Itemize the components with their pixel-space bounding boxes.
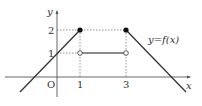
y-axis-label: y — [46, 6, 53, 17]
y-tick-1: 1 — [48, 48, 54, 59]
x-axis-arrow-icon — [187, 76, 191, 79]
function-graph: y x 2 1 O 1 3 y=f(x) — [0, 0, 202, 106]
x-tick-1: 1 — [77, 79, 83, 90]
y-axis-arrow-icon — [56, 10, 59, 14]
y-tick-2: 2 — [48, 25, 54, 36]
open-point-1-1 — [78, 51, 83, 56]
open-point-3-1 — [124, 51, 129, 56]
x-axis-label: x — [186, 80, 192, 91]
origin-label: O — [47, 79, 55, 90]
x-tick-3: 3 — [123, 79, 129, 90]
function-label: y=f(x) — [147, 34, 179, 45]
closed-point-3-2 — [123, 27, 128, 32]
closed-point-1-2 — [77, 27, 82, 32]
